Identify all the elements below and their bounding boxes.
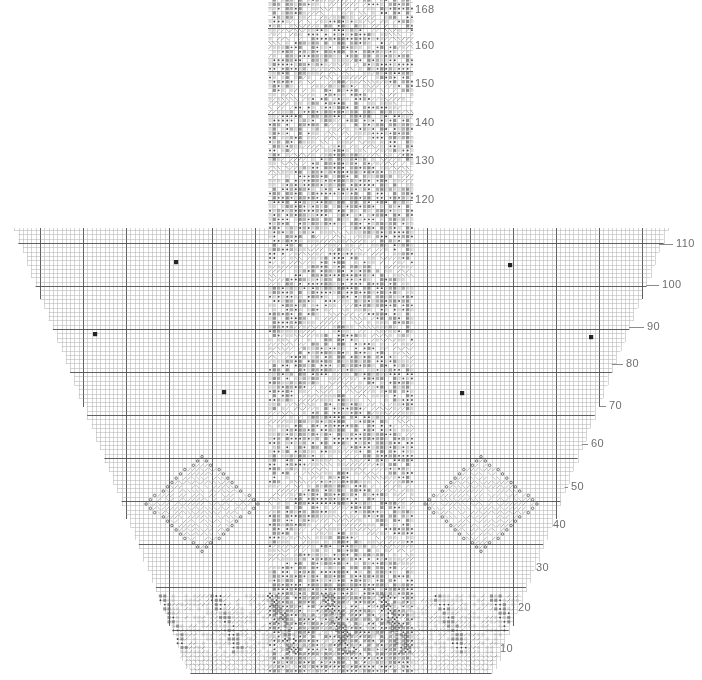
row-tick-label: 168 <box>415 4 435 15</box>
row-tick-label: 40 <box>553 519 566 530</box>
row-tick-label: 20 <box>518 602 531 613</box>
row-tick-label: 30 <box>536 562 549 573</box>
row-tick-label: 70 <box>609 400 622 411</box>
row-tick-label: 140 <box>415 117 435 128</box>
stitch-chart-canvas <box>0 0 702 680</box>
stitch-chart: 1681601501401301201101009080706050403020… <box>0 0 702 680</box>
row-tick-label: 80 <box>626 358 639 369</box>
row-tick-label: 120 <box>415 194 435 205</box>
row-tick-label: 160 <box>415 40 435 51</box>
row-tick-label: 150 <box>415 78 435 89</box>
row-tick-label: 10 <box>500 643 513 654</box>
row-tick-label: 100 <box>662 279 682 290</box>
row-tick-label: 60 <box>591 438 604 449</box>
row-tick-label: 90 <box>647 321 660 332</box>
row-tick-label: 110 <box>676 238 695 249</box>
row-tick-label: 50 <box>571 481 584 492</box>
row-tick-label: 130 <box>415 155 435 166</box>
